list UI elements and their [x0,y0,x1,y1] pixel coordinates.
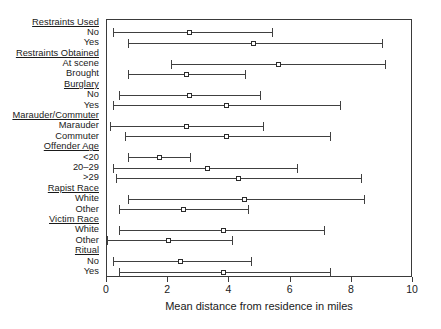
interval-cap-low [128,39,129,48]
x-axis-title: Mean distance from residence in miles [106,300,412,312]
category-label: Yes [0,266,102,276]
interval-row [107,70,413,79]
mean-marker [276,62,281,67]
interval-row [107,195,413,204]
interval-cap-high [263,122,264,131]
mean-marker [184,124,189,129]
mean-marker [242,197,247,202]
mean-marker [187,30,192,35]
interval-cap-low [116,174,117,183]
interval-bar [113,32,272,33]
interval-row [107,257,413,266]
interval-cap-low [128,153,129,162]
interval-row [107,268,413,277]
interval-cap-high [248,205,249,214]
mean-marker [236,176,241,181]
x-tick [167,277,168,282]
x-tick-label: 10 [406,283,418,295]
interval-cap-low [113,28,114,37]
interval-cap-low [128,70,129,79]
mean-marker [224,134,229,139]
category-label: Other [0,235,102,245]
mean-marker [205,166,210,171]
interval-cap-low [113,164,114,173]
interval-cap-high [330,268,331,277]
category-label: <20 [0,152,102,162]
interval-row [107,236,413,245]
interval-cap-high [260,91,261,100]
group-header-label: Marauder/Commuter [0,110,102,120]
interval-row [107,153,413,162]
group-header-label: Rapist Race [0,183,102,193]
group-header-label: Offender Age [0,141,102,151]
group-header-label: Burglary [0,79,102,89]
interval-cap-low [110,122,111,131]
interval-cap-high [330,132,331,141]
category-label: Commuter [0,131,102,141]
mean-marker [178,259,183,264]
category-label: White [0,193,102,203]
interval-cap-low [119,226,120,235]
x-tick-label: 6 [287,283,293,295]
interval-row [107,101,413,110]
group-header-label: Restraints Used [0,17,102,27]
group-header-label: Restraints Obtained [0,48,102,58]
interval-row [107,60,413,69]
category-label: Other [0,204,102,214]
interval-cap-high [297,164,298,173]
category-label: No [0,27,102,37]
x-tick-label: 4 [225,283,231,295]
interval-cap-high [245,70,246,79]
category-label: Brought [0,68,102,78]
interval-cap-high [190,153,191,162]
category-label: No [0,256,102,266]
category-label: >29 [0,172,102,182]
interval-row [107,39,413,48]
x-tick [228,277,229,282]
interval-cap-high [361,174,362,183]
interval-row [107,122,413,131]
interval-cap-low [128,195,129,204]
x-tick [106,277,107,282]
category-label: Yes [0,37,102,47]
mean-marker [157,155,162,160]
x-tick-label: 0 [103,283,109,295]
interval-cap-high [251,257,252,266]
interval-cap-low [113,101,114,110]
category-label: At scene [0,58,102,68]
interval-row [107,132,413,141]
category-label: White [0,224,102,234]
interval-row [107,226,413,235]
category-label: Yes [0,100,102,110]
x-tick-label: 8 [348,283,354,295]
interval-row [107,174,413,183]
interval-row [107,91,413,100]
x-tick-label: 2 [164,283,170,295]
group-header-label: Victim Race [0,214,102,224]
interval-cap-high [340,101,341,110]
mean-marker [221,228,226,233]
interval-cap-high [385,60,386,69]
group-header-label: Ritual [0,245,102,255]
x-tick [290,277,291,282]
x-tick [412,277,413,282]
interval-cap-low [107,236,108,245]
mean-marker [184,72,189,77]
interval-cap-high [272,28,273,37]
category-label: Marauder [0,120,102,130]
category-label: No [0,89,102,99]
interval-cap-high [232,236,233,245]
mean-marker [224,103,229,108]
mean-marker [251,41,256,46]
interval-cap-low [113,257,114,266]
interval-cap-high [364,195,365,204]
category-label: 20–29 [0,162,102,172]
mean-marker [181,207,186,212]
interval-cap-low [171,60,172,69]
interval-row [107,205,413,214]
interval-cap-high [382,39,383,48]
interval-cap-low [119,205,120,214]
mean-marker [221,270,226,275]
plot-area [106,19,412,277]
interval-row [107,164,413,173]
